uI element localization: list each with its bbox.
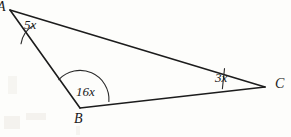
vertex-label-c: C: [275, 77, 284, 91]
vertex-label-b: B: [74, 112, 83, 126]
angle-measure-label-c: 3x: [215, 71, 227, 84]
angle-measure-label-a: 5x: [24, 18, 36, 31]
triangle-svg-canvas: [0, 0, 291, 137]
triangle-side-ab: [10, 10, 80, 108]
angle-measure-label-b: 16x: [76, 85, 95, 98]
triangle-diagram: A B C 5x 16x 3x: [0, 0, 291, 137]
vertex-label-a: A: [0, 0, 6, 14]
